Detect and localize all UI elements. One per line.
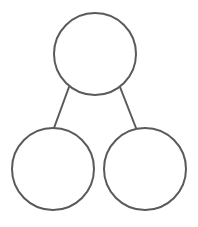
edge-root-to-left-child xyxy=(54,87,69,128)
node-root xyxy=(54,13,136,95)
edge-root-to-right-child xyxy=(120,87,136,128)
tree-diagram-svg xyxy=(0,0,198,227)
nodes-layer xyxy=(12,13,186,210)
node-right-child xyxy=(104,128,186,210)
tree-diagram xyxy=(0,0,198,227)
node-left-child xyxy=(12,128,94,210)
